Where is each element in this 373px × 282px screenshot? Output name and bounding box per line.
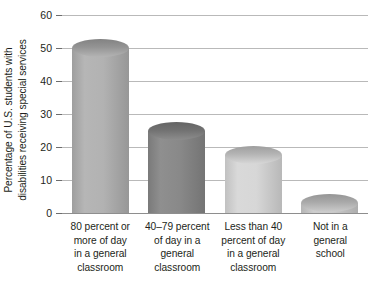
y-axis-tick	[56, 213, 62, 214]
y-axis-tick	[56, 48, 62, 49]
x-axis-label: Less than 40percent of dayin a generalcl…	[209, 220, 298, 274]
x-axis-label-line: classroom	[209, 261, 298, 275]
bar-top-ellipse	[301, 194, 358, 212]
y-axis-tick-label: 40	[12, 76, 52, 87]
y-axis-tick	[56, 180, 62, 181]
plot-area: 0102030405060	[62, 15, 368, 213]
y-axis-tick	[56, 15, 62, 16]
y-axis-tick	[56, 147, 62, 148]
gridline	[62, 15, 368, 16]
bar	[301, 203, 358, 213]
y-axis-tick-label: 50	[12, 43, 52, 54]
bar-top-ellipse	[148, 122, 205, 140]
x-axis-label-line: in a general	[56, 247, 145, 261]
x-axis-label-line: percent of day	[209, 234, 298, 248]
y-axis-tick-label: 0	[12, 208, 52, 219]
x-axis-label-line: more of day	[56, 234, 145, 248]
y-axis-tick	[56, 81, 62, 82]
x-axis-label-line: school	[286, 247, 373, 261]
y-axis-tick-label: 30	[12, 109, 52, 120]
bar-body	[148, 131, 205, 214]
x-axis-label-line: Less than 40	[209, 220, 298, 234]
bar	[72, 48, 129, 213]
x-axis-label: 80 percent ormore of dayin a generalclas…	[56, 220, 145, 274]
x-axis-label-line: 80 percent or	[56, 220, 145, 234]
x-axis-label: Not in ageneralschool	[286, 220, 373, 261]
y-axis-tick-label: 10	[12, 175, 52, 186]
x-axis-label-line: general	[286, 234, 373, 248]
y-axis-tick-label: 20	[12, 142, 52, 153]
y-axis-title-line-1: Percentage of U.S. students with	[2, 47, 15, 192]
x-axis-label-line: Not in a	[286, 220, 373, 234]
bar-chart: Percentage of U.S. students with disabil…	[0, 0, 373, 282]
bar	[225, 155, 282, 213]
x-axis-label-line: classroom	[56, 261, 145, 275]
x-axis-label-line: in a general	[209, 247, 298, 261]
y-axis-tick-label: 60	[12, 10, 52, 21]
y-axis-tick	[56, 114, 62, 115]
bar-body	[72, 48, 129, 213]
bar-top-ellipse	[72, 39, 129, 57]
x-axis-line	[62, 213, 368, 214]
bar	[148, 131, 205, 214]
